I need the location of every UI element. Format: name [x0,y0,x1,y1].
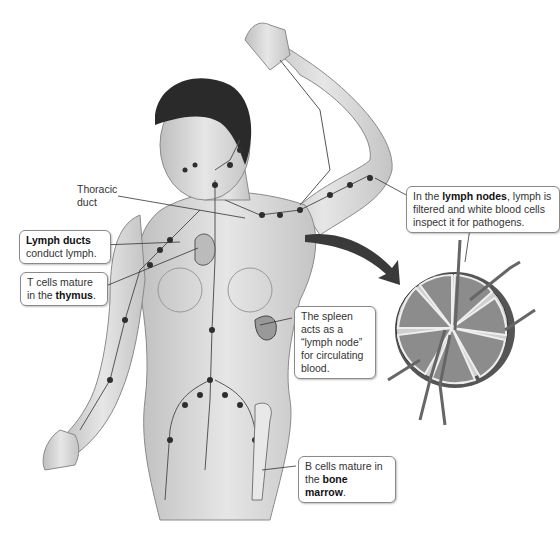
pointer-arrow [305,234,400,285]
callout-lymph-nodes: In the lymph nodes, lymph is filtered an… [406,186,560,233]
thymus [195,234,215,265]
label-thoracic-duct: Thoracic duct [77,183,117,209]
callout-spleen: The spleen acts as a “lymph node” for ci… [294,306,376,379]
callout-bone-marrow: B cells mature in the bone marrow. [298,456,396,503]
callout-lymph-ducts: Lymph ducts conduct lymph. [19,230,111,264]
lymph-node-cross-section [388,240,535,425]
callout-thymus: T cells mature in the thymus. [20,272,108,306]
